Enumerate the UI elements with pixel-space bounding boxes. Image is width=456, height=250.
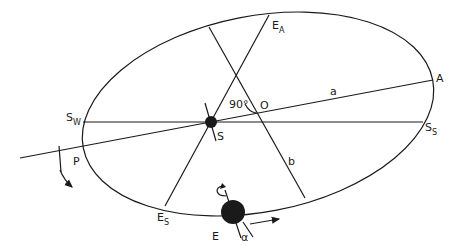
label-summer-solstice: S S — [425, 121, 437, 137]
svg-text:A: A — [279, 26, 285, 35]
svg-text:E: E — [272, 19, 279, 32]
label-earth: E — [212, 230, 219, 243]
equinox-line — [165, 15, 269, 206]
svg-text:S: S — [66, 111, 73, 124]
label-perihelion: P — [73, 155, 80, 168]
label-autumn-equinox: E A — [272, 19, 285, 35]
precession-arrow — [60, 170, 72, 187]
label-winter-solstice: S W — [66, 111, 81, 127]
svg-text:S: S — [432, 128, 437, 137]
label-semi-major: a — [330, 85, 337, 98]
svg-text:E: E — [157, 211, 164, 224]
earth-motion-arrow — [250, 219, 279, 224]
apsidal-line — [20, 80, 433, 158]
label-obliquity: α — [241, 231, 248, 244]
label-center: O — [260, 99, 269, 112]
sun-icon — [205, 116, 217, 128]
svg-text:S: S — [425, 121, 432, 134]
orbit-diagram: A O a b 90° S P E α S W S S E A E S — [0, 0, 456, 250]
label-spring-equinox: E S — [157, 211, 169, 227]
label-semi-minor: b — [288, 155, 295, 168]
label-sun: S — [217, 130, 224, 143]
label-right-angle: 90° — [229, 98, 249, 111]
earth-icon — [221, 200, 245, 224]
minor-axis-line — [209, 27, 305, 198]
svg-text:S: S — [164, 218, 169, 227]
svg-text:W: W — [73, 118, 81, 127]
label-aphelion: A — [436, 72, 444, 85]
